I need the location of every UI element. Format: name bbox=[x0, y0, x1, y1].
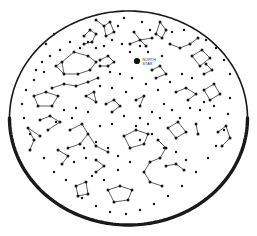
star-dot bbox=[185, 131, 188, 134]
star-dot bbox=[29, 149, 32, 152]
field-star-dot bbox=[117, 169, 119, 171]
star-dot bbox=[175, 163, 178, 166]
star-dot bbox=[183, 169, 186, 172]
star-dot bbox=[107, 65, 110, 68]
star-dot bbox=[95, 159, 98, 162]
star-dot bbox=[113, 99, 116, 102]
star-dot bbox=[155, 33, 158, 36]
star-dot bbox=[81, 123, 84, 126]
star-dot bbox=[157, 139, 160, 142]
star-dot bbox=[221, 145, 224, 148]
field-star-dot bbox=[117, 155, 119, 157]
star-dot bbox=[75, 85, 78, 88]
field-star-dot bbox=[125, 213, 127, 215]
star-dot bbox=[159, 65, 162, 68]
star-dot bbox=[151, 37, 154, 40]
star-dot bbox=[87, 81, 90, 84]
field-star-dot bbox=[215, 145, 217, 147]
field-star-dot bbox=[163, 147, 165, 149]
field-star-dot bbox=[139, 139, 141, 141]
north-star-label-line2: STAR bbox=[143, 62, 153, 66]
star-dot bbox=[99, 65, 102, 68]
star-dot bbox=[75, 185, 78, 188]
star-dot bbox=[139, 105, 142, 108]
star-dot bbox=[55, 65, 58, 68]
star-dot bbox=[49, 115, 52, 118]
star-dot bbox=[51, 105, 54, 108]
star-dot bbox=[211, 69, 214, 72]
field-star-dot bbox=[99, 85, 101, 87]
field-star-dot bbox=[229, 97, 231, 99]
sky-chart-svg: NORTH STAR bbox=[0, 0, 257, 236]
field-star-dot bbox=[153, 203, 155, 205]
field-star-dot bbox=[147, 51, 149, 53]
star-dot bbox=[203, 89, 206, 92]
field-star-dot bbox=[129, 51, 131, 53]
field-star-dot bbox=[95, 205, 97, 207]
field-star-dot bbox=[99, 125, 101, 127]
field-star-dot bbox=[205, 39, 207, 41]
star-dot bbox=[203, 73, 206, 76]
field-star-dot bbox=[123, 115, 125, 117]
star-dot bbox=[161, 37, 164, 40]
field-star-dot bbox=[171, 31, 173, 33]
field-star-dot bbox=[53, 171, 55, 173]
field-star-dot bbox=[81, 197, 83, 199]
star-dot bbox=[139, 39, 142, 42]
field-star-dot bbox=[41, 61, 43, 63]
field-star-dot bbox=[119, 73, 121, 75]
star-dot bbox=[61, 163, 64, 166]
star-dot bbox=[195, 123, 198, 126]
star-dot bbox=[159, 21, 162, 24]
field-star-dot bbox=[49, 55, 51, 57]
field-star-dot bbox=[59, 49, 61, 51]
star-dot bbox=[87, 193, 90, 196]
field-star-dot bbox=[141, 21, 143, 23]
star-dot bbox=[63, 73, 66, 76]
star-dot bbox=[103, 165, 106, 168]
star-dot bbox=[99, 59, 102, 62]
star-dot bbox=[77, 195, 80, 198]
field-star-dot bbox=[171, 109, 173, 111]
star-dot bbox=[77, 73, 80, 76]
star-dot bbox=[95, 145, 98, 148]
star-dot bbox=[201, 49, 204, 52]
star-dot bbox=[177, 121, 180, 124]
star-dot bbox=[149, 181, 152, 184]
star-dot bbox=[95, 61, 98, 64]
star-dot bbox=[57, 95, 60, 98]
field-star-dot bbox=[181, 185, 183, 187]
star-dot bbox=[229, 137, 232, 140]
star-dot bbox=[113, 31, 116, 34]
star-dot bbox=[67, 155, 70, 158]
field-star-dot bbox=[45, 43, 47, 45]
star-dot bbox=[79, 143, 82, 146]
star-dot bbox=[95, 101, 98, 104]
star-dot bbox=[169, 43, 172, 46]
field-star-dot bbox=[83, 147, 85, 149]
star-dot bbox=[155, 77, 158, 80]
star-dot bbox=[107, 189, 110, 192]
field-star-dot bbox=[195, 171, 197, 173]
field-star-dot bbox=[95, 47, 97, 49]
star-dot bbox=[149, 161, 152, 164]
field-star-dot bbox=[199, 109, 201, 111]
field-star-dot bbox=[109, 211, 111, 213]
field-star-dot bbox=[43, 71, 45, 73]
field-star-dot bbox=[25, 89, 27, 91]
star-dot bbox=[167, 127, 170, 130]
star-dot bbox=[145, 45, 148, 48]
field-star-dot bbox=[29, 133, 31, 135]
field-star-dot bbox=[125, 91, 127, 93]
field-star-dot bbox=[185, 159, 187, 161]
star-dot bbox=[179, 47, 182, 50]
field-star-dot bbox=[69, 41, 71, 43]
star-dot bbox=[59, 121, 62, 124]
field-star-dot bbox=[147, 123, 149, 125]
field-star-dot bbox=[207, 157, 209, 159]
field-star-dot bbox=[175, 151, 177, 153]
star-dot bbox=[83, 35, 86, 38]
star-dot bbox=[109, 21, 112, 24]
field-star-dot bbox=[65, 179, 67, 181]
north-star-marker bbox=[134, 58, 140, 64]
